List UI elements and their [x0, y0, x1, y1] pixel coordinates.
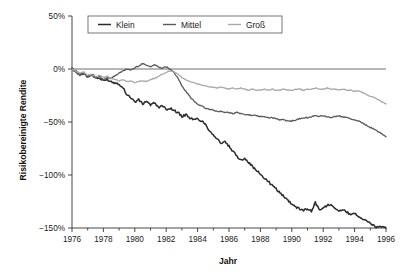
chart-legend: KleinMittelGroß: [88, 16, 282, 33]
axis-spines: [72, 16, 386, 228]
x-tick-label: 1992: [314, 235, 333, 244]
y-tick-label: −50%: [44, 118, 65, 127]
tick-marks: [68, 16, 386, 232]
y-tick-label: −150%: [39, 224, 65, 233]
series-line-klein: [72, 68, 386, 228]
x-tick-label: 1988: [251, 235, 270, 244]
axis-layer: [72, 16, 386, 228]
y-axis-tick-labels: 50%0%−50%−100%−150%: [39, 12, 65, 233]
x-tick-label: 1984: [188, 235, 207, 244]
x-axis-tick-labels: 1976197819801982198419861988199019921994…: [63, 235, 396, 244]
series-layer: [72, 64, 386, 229]
y-tick-label: −100%: [39, 171, 65, 180]
x-axis-title: Jahr: [219, 256, 238, 266]
y-axis-title: Risikobereinigte Rendite: [18, 79, 28, 180]
legend-label-gro-: Groß: [246, 20, 265, 30]
series-line-gro-: [72, 69, 386, 104]
y-tick-label: 50%: [49, 12, 65, 21]
chart-container: 1976197819801982198419861988199019921994…: [0, 0, 411, 272]
x-tick-label: 1978: [94, 235, 113, 244]
x-tick-label: 1994: [345, 235, 364, 244]
series-line-mittel: [72, 64, 386, 137]
x-tick-label: 1982: [157, 235, 176, 244]
x-tick-label: 1986: [220, 235, 239, 244]
x-tick-label: 1976: [63, 235, 82, 244]
legend-label-mittel: Mittel: [181, 20, 201, 30]
x-tick-label: 1990: [283, 235, 302, 244]
x-tick-label: 1980: [126, 235, 145, 244]
y-tick-label: 0%: [53, 65, 65, 74]
risk-adjusted-return-line-chart: 1976197819801982198419861988199019921994…: [0, 0, 411, 272]
x-tick-label: 1996: [377, 235, 396, 244]
legend-label-klein: Klein: [116, 20, 135, 30]
